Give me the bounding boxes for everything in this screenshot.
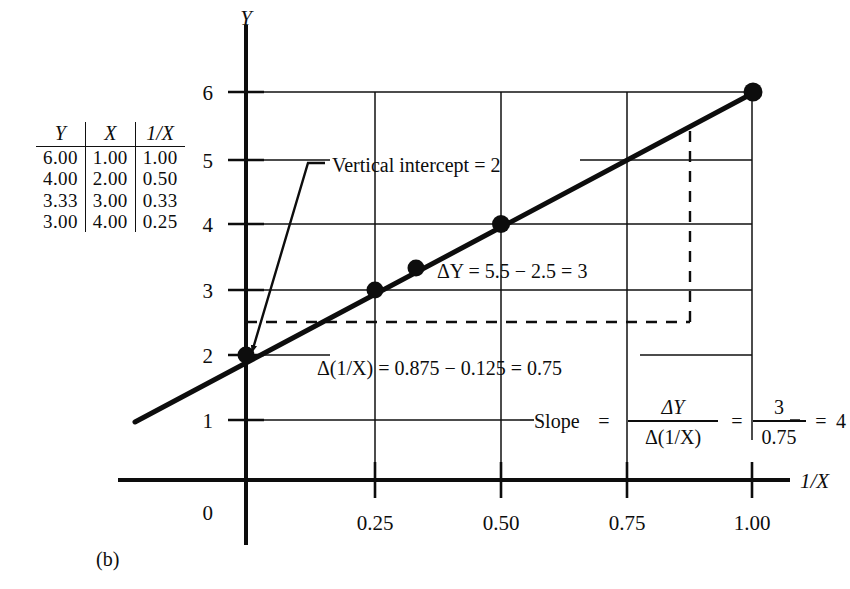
slope-fraction1-numerator: ΔY — [661, 396, 687, 418]
slope-fraction2-denominator: 0.75 — [762, 426, 797, 448]
data-point-033-333 — [408, 260, 425, 277]
slope-fraction1-denominator: Δ(1/X) — [645, 426, 701, 449]
figure-panel: Y X 1/X 6.00 1.00 1.00 4.00 2.00 0.50 3.… — [0, 0, 850, 589]
x-axis-label: 1/X — [800, 469, 830, 493]
slope-equals-1: = — [598, 410, 609, 432]
annotation-slope-formula: Slope = ΔY Δ(1/X) = 3 0.75 = 4 — [520, 396, 846, 449]
xtick-label-050: 0.50 — [483, 511, 520, 535]
data-point-050-4 — [492, 215, 510, 233]
chart-canvas: 6 5 4 3 2 1 0 0.25 0.50 0.75 1.00 Y 1/X — [0, 0, 850, 589]
axes — [118, 25, 790, 545]
xtick-label-100: 1.00 — [734, 511, 771, 535]
data-point-100-6 — [744, 83, 763, 102]
y-tick-labels: 6 5 4 3 2 1 0 — [203, 81, 214, 525]
annotation-delta-y: ΔY = 5.5 − 2.5 = 3 — [437, 260, 587, 282]
xtick-label-075: 0.75 — [609, 511, 646, 535]
ytick-label-1: 1 — [203, 409, 214, 433]
slope-fraction2-numerator: 3 — [774, 396, 784, 418]
slope-value: 4 — [836, 410, 846, 432]
data-point-025-3 — [367, 282, 384, 299]
ytick-label-4: 4 — [203, 213, 214, 237]
slope-equals-3: = — [815, 410, 826, 432]
ytick-label-3: 3 — [203, 279, 214, 303]
ytick-label-2: 2 — [203, 344, 214, 368]
ytick-label-5: 5 — [203, 149, 214, 173]
slope-word: Slope — [534, 410, 580, 433]
slope-equals-2: = — [731, 410, 742, 432]
y-axis-label: Y — [240, 6, 254, 30]
intercept-leader-arrow — [252, 163, 325, 352]
ytick-label-6: 6 — [203, 81, 214, 105]
ytick-label-0: 0 — [203, 501, 214, 525]
annotation-vertical-intercept: Vertical intercept = 2 — [332, 154, 500, 177]
x-tick-labels: 0.25 0.50 0.75 1.00 — [357, 511, 771, 535]
xtick-label-025: 0.25 — [357, 511, 394, 535]
annotation-delta-x: Δ(1/X) = 0.875 − 0.125 = 0.75 — [317, 357, 562, 380]
